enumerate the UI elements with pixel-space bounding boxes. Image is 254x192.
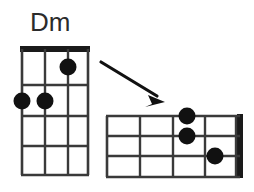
nut-bar-horizontal [237,114,243,178]
finger-dot [179,108,196,125]
finger-dot [179,128,196,145]
finger-dot [14,93,31,110]
chord-diagram-canvas [0,0,254,192]
chord-figure: Dm [0,0,254,192]
finger-dot [60,59,77,76]
chord-diagram-vertical [14,46,91,175]
arrow-shaft [101,62,157,96]
finger-dot [207,148,224,165]
rotation-arrow [101,62,165,107]
chord-diagram-horizontal [106,108,243,179]
nut-bar-vertical [20,46,90,52]
arrow-head-icon [145,95,165,107]
finger-dot [37,93,54,110]
